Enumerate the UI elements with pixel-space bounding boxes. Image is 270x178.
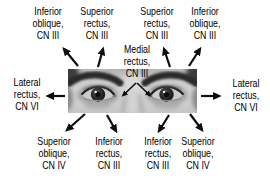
- label-line: CN III: [140, 30, 173, 42]
- label-line: rectus,: [80, 18, 113, 30]
- label-superior-oblique-bottom-left: Superior oblique, CN IV: [37, 136, 70, 171]
- label-lateral-rectus-right: Lateral rectus, CN VI: [233, 78, 260, 113]
- label-line: oblique,: [37, 148, 70, 160]
- arrow-inferior-rectus-bottom-right: [159, 115, 169, 131]
- label-line: CN IV: [181, 160, 214, 172]
- label-medial-rectus: Medial rectus, CN III: [124, 44, 150, 79]
- label-line: rectus,: [95, 148, 122, 160]
- extraocular-muscles-diagram: Inferior oblique, CN III Superior rectus…: [0, 0, 270, 178]
- label-line: CN III: [190, 30, 221, 42]
- arrow-superior-rectus-top-right: [164, 49, 170, 67]
- label-line: CN III: [144, 160, 171, 172]
- label-line: CN IV: [37, 160, 70, 172]
- label-line: rectus,: [144, 148, 171, 160]
- arrow-superior-rectus-top-left: [98, 49, 103, 67]
- label-line: oblique,: [181, 148, 214, 160]
- label-line: CN III: [80, 30, 113, 42]
- arrow-inferior-oblique-top-left: [64, 49, 78, 66]
- label-superior-rectus-top-left: Superior rectus, CN III: [80, 6, 113, 41]
- label-line: CN VI: [233, 102, 260, 114]
- label-line: CN III: [95, 160, 122, 172]
- label-superior-rectus-top-right: Superior rectus, CN III: [140, 6, 173, 41]
- label-line: rectus,: [14, 89, 41, 101]
- label-inferior-oblique-top-right: Inferior oblique, CN III: [190, 6, 221, 41]
- label-line: rectus,: [233, 90, 260, 102]
- label-line: CN III: [33, 30, 64, 42]
- arrow-superior-oblique-bottom-right: [190, 114, 202, 130]
- label-inferior-oblique-top-left: Inferior oblique, CN III: [33, 6, 64, 41]
- label-lateral-rectus-left: Lateral rectus, CN VI: [14, 77, 41, 112]
- label-line: oblique,: [190, 18, 221, 30]
- label-inferior-rectus-bottom-left: Inferior rectus, CN III: [95, 136, 122, 171]
- label-line: rectus,: [124, 56, 150, 68]
- label-line: CN III: [124, 68, 150, 80]
- arrow-inferior-rectus-bottom-left: [107, 115, 116, 131]
- arrow-inferior-oblique-top-right: [189, 49, 200, 66]
- label-superior-oblique-bottom-right: Superior oblique, CN IV: [181, 136, 214, 171]
- arrow-superior-oblique-bottom-left: [67, 114, 85, 130]
- label-line: oblique,: [33, 18, 64, 30]
- label-line: CN VI: [14, 101, 41, 113]
- label-inferior-rectus-bottom-right: Inferior rectus, CN III: [144, 136, 171, 171]
- label-line: rectus,: [140, 18, 173, 30]
